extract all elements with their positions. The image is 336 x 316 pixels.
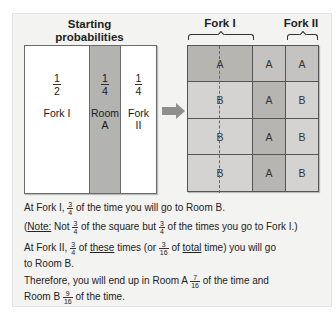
denominator: 16 xyxy=(63,297,73,305)
text: of the time and xyxy=(200,275,269,286)
numerator: 3 xyxy=(161,241,167,248)
fork-1-split-line xyxy=(219,46,220,193)
grid-cell: B xyxy=(188,119,253,155)
text: Not xyxy=(51,221,72,232)
note-label: Note: xyxy=(27,221,51,232)
fraction: 316 xyxy=(159,241,169,256)
title-line-1: Starting xyxy=(24,18,155,31)
text: At Fork II, xyxy=(24,242,70,253)
denominator: 2 xyxy=(53,84,61,97)
grid-cell: B xyxy=(286,119,318,155)
column-label-2: A xyxy=(90,119,120,131)
text: of the time. xyxy=(73,291,125,302)
text: of xyxy=(76,242,90,253)
emphasis-total: total xyxy=(183,242,202,253)
starting-probabilities-title: Starting probabilities xyxy=(24,18,155,44)
emphasis-these: these xyxy=(90,242,114,253)
fraction: 716 xyxy=(190,274,200,289)
text: times (or xyxy=(114,242,158,253)
text: Room B xyxy=(24,291,63,302)
numerator: 9 xyxy=(65,290,71,297)
numerator: 7 xyxy=(192,274,198,281)
title-line-2: probabilities xyxy=(24,31,155,44)
text: time) you will go xyxy=(201,242,275,253)
column-label: Fork xyxy=(121,107,156,119)
fraction-one-quarter: 1 4 xyxy=(101,72,109,97)
column-fork-1: 1 2 Fork I xyxy=(25,46,89,193)
numerator: 1 xyxy=(135,72,143,84)
denominator: 16 xyxy=(190,281,200,289)
explanation-line-3: At Fork II, 34 of these times (or 316 of… xyxy=(24,241,276,256)
fraction-one-quarter: 1 4 xyxy=(135,72,143,97)
column-label-2: II xyxy=(121,119,156,131)
grid-cell: A xyxy=(253,155,286,191)
fork-2-brace xyxy=(287,34,318,40)
grid-cell: B xyxy=(188,155,253,191)
grid-cell: B xyxy=(286,82,318,119)
fraction: 916 xyxy=(63,290,73,305)
grid-cell: A xyxy=(253,119,286,155)
explanation-line-6: Room B 916 of the time. xyxy=(24,290,125,305)
column-fork-2: 1 4 Fork II xyxy=(121,46,156,193)
column-room-a: 1 4 Room A xyxy=(89,46,121,193)
explanation-line-4: to Room B. xyxy=(24,257,74,270)
denominator: 16 xyxy=(159,248,169,256)
text: At Fork I, xyxy=(24,202,67,213)
fraction-one-half: 1 2 xyxy=(53,72,61,97)
denominator: 4 xyxy=(101,84,109,97)
text: of the time you will go to Room B. xyxy=(73,202,225,213)
text: Therefore, you will end up in Room A xyxy=(24,275,190,286)
text: of the square but xyxy=(78,221,159,232)
fork-1-brace xyxy=(188,34,254,40)
numerator: 1 xyxy=(101,72,109,84)
grid-cell: A xyxy=(253,46,286,82)
column-label: Room xyxy=(90,107,120,119)
outcome-grid: A A A B A B B A B B A B xyxy=(187,45,319,192)
explanation-line-1: At Fork I, 34 of the time you will go to… xyxy=(24,201,225,216)
grid-cell: A xyxy=(253,82,286,119)
grid-cell: B xyxy=(286,155,318,191)
fork-1-header: Fork I xyxy=(187,17,253,30)
right-arrow-icon xyxy=(162,103,186,119)
denominator: 4 xyxy=(135,84,143,97)
numerator: 1 xyxy=(53,72,61,84)
explanation-line-5: Therefore, you will end up in Room A 716… xyxy=(24,274,269,289)
grid-cell: A xyxy=(188,46,253,82)
explanation-line-2: (Note: Not 34 of the square but 34 of th… xyxy=(24,220,298,235)
grid-cell: A xyxy=(286,46,318,82)
column-label: Fork I xyxy=(25,107,89,119)
starting-probabilities-box: 1 2 Fork I 1 4 Room A 1 4 Fork II xyxy=(24,45,157,194)
text: of the times you go to Fork I.) xyxy=(165,221,298,232)
grid-cell: B xyxy=(188,82,253,119)
text: of xyxy=(169,242,183,253)
fork-2-header: Fork II xyxy=(283,17,319,30)
